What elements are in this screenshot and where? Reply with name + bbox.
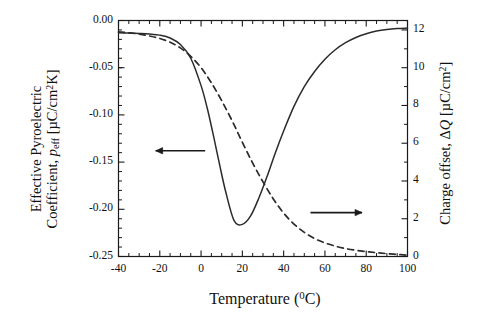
right-axis-tick-label: 6 — [413, 135, 439, 147]
left-axis-title-line2: Coefficient, peff [µC/cm2K] — [44, 24, 62, 274]
left-axis-tick-label: -0.10 — [58, 107, 113, 119]
right-axis-delta-symbol: Δ — [437, 130, 453, 139]
left-axis-tick-label: -0.15 — [58, 154, 113, 166]
charge-offset-curve — [119, 32, 408, 255]
axis-ticks — [119, 21, 408, 257]
left-axis-title: Effective Pyroelectric Coefficient, peff… — [28, 24, 62, 274]
annotations — [156, 148, 362, 216]
pyroelectric-chart-figure: 0.00-0.05-0.10-0.15-0.20-0.25 024681012 … — [0, 0, 479, 322]
left-axis-unit-suffix: K] — [44, 69, 60, 84]
right-axis-tick-label: 2 — [413, 211, 439, 223]
x-axis-title: Temperature (0C) — [150, 289, 380, 307]
left-axis-symbol: p — [44, 149, 60, 156]
left-axis-tick-label: -0.05 — [58, 60, 113, 72]
data-series — [119, 28, 408, 255]
plot-border — [119, 21, 408, 257]
right-axis-title-prefix: Charge offset, — [437, 139, 453, 224]
left-axis-title-line1: Effective Pyroelectric — [28, 24, 44, 274]
left-axis-symbol-subscript: eff — [51, 138, 62, 149]
x-axis-tick-label: 40 — [264, 262, 304, 274]
left-axis-tick-label: 0.00 — [58, 13, 113, 25]
x-axis-title-suffix: C) — [305, 290, 321, 307]
x-axis-tick-label: -40 — [99, 262, 139, 274]
right-axis-tick-label: 8 — [413, 97, 439, 109]
left-axis-unit-prefix: [µC/cm — [44, 90, 60, 138]
left-axis-unit-superscript: 2 — [44, 85, 55, 90]
right-axis-tick-label: 4 — [413, 173, 439, 185]
left-axis-tick-label: -0.20 — [58, 201, 113, 213]
x-axis-tick-label: 0 — [181, 262, 221, 274]
right-axis-symbol: Q — [437, 120, 453, 130]
right-axis-title: Charge offset, ΔQ [µC/cm2] — [437, 23, 453, 263]
right-axis-tick-label: 0 — [413, 249, 439, 261]
left-arrow-annotation-head — [156, 148, 163, 154]
right-axis-tick-label: 12 — [413, 22, 439, 34]
right-axis-tick-label: 10 — [413, 60, 439, 72]
right-axis-unit-prefix: [µC/cm — [437, 71, 453, 119]
x-axis-title-prefix: Temperature ( — [209, 290, 299, 307]
x-axis-tick-label: -20 — [140, 262, 180, 274]
right-arrow-annotation-head — [355, 209, 362, 215]
right-axis-unit-superscript: 2 — [437, 67, 448, 72]
pyroelectric-coefficient-curve — [119, 28, 408, 225]
x-axis-tick-label: 100 — [388, 262, 428, 274]
left-axis-tick-label: -0.25 — [58, 249, 113, 261]
x-axis-tick-label: 60 — [305, 262, 345, 274]
right-axis-unit-suffix: ] — [437, 62, 453, 67]
left-axis-title-prefix: Coefficient, — [44, 156, 60, 228]
x-axis-tick-label: 80 — [346, 262, 386, 274]
x-axis-tick-label: 20 — [222, 262, 262, 274]
plot-frame — [119, 21, 408, 257]
